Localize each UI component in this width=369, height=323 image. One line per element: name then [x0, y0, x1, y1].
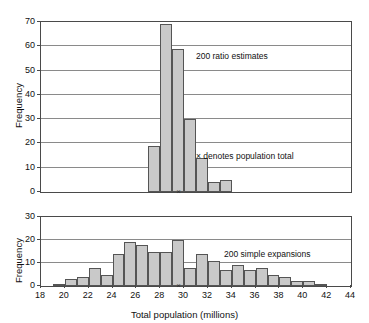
y-tick-mark — [37, 45, 40, 46]
x-tick-label: 36 — [243, 291, 267, 300]
bar — [196, 158, 208, 192]
y-tick-label: 40 — [25, 90, 35, 99]
bottom-y-axis-label: Frequency — [13, 238, 24, 283]
chart-figure: Frequency × 010203040506070 200 ratio es… — [0, 0, 369, 323]
x-tick-label: 40 — [290, 291, 314, 300]
y-tick-label: 60 — [25, 41, 35, 50]
y-tick-mark — [37, 239, 40, 240]
x-tick-label: 42 — [314, 291, 338, 300]
x-tick-mark — [326, 285, 327, 288]
y-tick-label: 10 — [25, 163, 35, 172]
bar — [196, 254, 208, 286]
bar — [148, 252, 160, 287]
y-tick-label: 30 — [25, 212, 35, 221]
bottom-annotation: 200 simple expansions — [224, 249, 310, 259]
x-tick-label: 22 — [76, 291, 100, 300]
bar — [220, 270, 232, 286]
bar — [136, 245, 148, 286]
gridline — [41, 45, 351, 46]
x-tick-mark — [112, 285, 113, 288]
bar — [113, 254, 125, 286]
top-plot-area: × — [40, 21, 352, 193]
x-tick-label: 30 — [171, 291, 195, 300]
x-tick-label: 20 — [52, 291, 76, 300]
top-panel: Frequency × 010203040506070 200 ratio es… — [0, 0, 369, 200]
bar — [172, 49, 184, 192]
y-tick-mark — [37, 216, 40, 217]
bar — [184, 268, 196, 286]
bar — [279, 277, 291, 286]
x-tick-mark — [183, 285, 184, 288]
bottom-panel: Frequency × 0102030 18202224262830323436… — [0, 205, 369, 323]
gridline — [41, 70, 351, 71]
x-tick-label: 34 — [219, 291, 243, 300]
bar — [303, 281, 315, 286]
bar — [232, 265, 244, 286]
y-tick-mark — [37, 21, 40, 22]
x-tick-mark — [231, 285, 232, 288]
y-tick-label: 20 — [25, 138, 35, 147]
bar — [160, 252, 172, 287]
bar — [148, 146, 160, 192]
x-tick-label: 32 — [195, 291, 219, 300]
y-tick-label: 0 — [30, 187, 35, 196]
y-tick-mark — [37, 70, 40, 71]
gridline — [41, 118, 351, 119]
bar — [184, 119, 196, 192]
gridline — [41, 94, 351, 95]
y-tick-label: 50 — [25, 66, 35, 75]
x-tick-mark — [88, 285, 89, 288]
top-annotation: 200 ratio estimates — [196, 51, 268, 61]
y-tick-mark — [37, 262, 40, 263]
bar — [172, 240, 184, 286]
bar — [89, 268, 101, 286]
x-tick-mark — [278, 285, 279, 288]
x-tick-label: 28 — [147, 291, 171, 300]
x-tick-label: 18 — [28, 291, 52, 300]
gridline — [41, 239, 351, 240]
x-tick-mark — [207, 285, 208, 288]
bar — [65, 279, 77, 286]
population-total-marker: × — [176, 188, 181, 196]
y-tick-label: 30 — [25, 114, 35, 123]
y-tick-mark — [37, 191, 40, 192]
top-legend-note: × denotes population total — [196, 151, 294, 161]
y-tick-mark — [37, 167, 40, 168]
x-tick-label: 38 — [266, 291, 290, 300]
x-tick-mark — [350, 285, 351, 288]
bar — [124, 242, 136, 286]
x-tick-mark — [64, 285, 65, 288]
x-axis-label: Total population (millions) — [0, 309, 369, 320]
y-tick-label: 10 — [25, 258, 35, 267]
bar — [160, 24, 172, 192]
population-total-marker: × — [176, 282, 181, 290]
bar — [208, 261, 220, 286]
x-tick-mark — [159, 285, 160, 288]
gridline — [41, 142, 351, 143]
x-tick-mark — [302, 285, 303, 288]
x-tick-mark — [255, 285, 256, 288]
bar — [208, 182, 220, 192]
x-tick-mark — [135, 285, 136, 288]
y-tick-label: 70 — [25, 17, 35, 26]
x-tick-label: 44 — [338, 291, 362, 300]
bar — [220, 180, 232, 192]
bar — [256, 268, 268, 286]
y-tick-mark — [37, 142, 40, 143]
x-tick-mark — [40, 285, 41, 288]
x-tick-label: 24 — [100, 291, 124, 300]
y-tick-mark — [37, 94, 40, 95]
y-tick-label: 20 — [25, 235, 35, 244]
y-tick-label: 0 — [30, 281, 35, 290]
y-tick-mark — [37, 118, 40, 119]
x-tick-label: 26 — [123, 291, 147, 300]
top-y-axis-label: Frequency — [13, 83, 24, 128]
bar — [244, 270, 256, 286]
